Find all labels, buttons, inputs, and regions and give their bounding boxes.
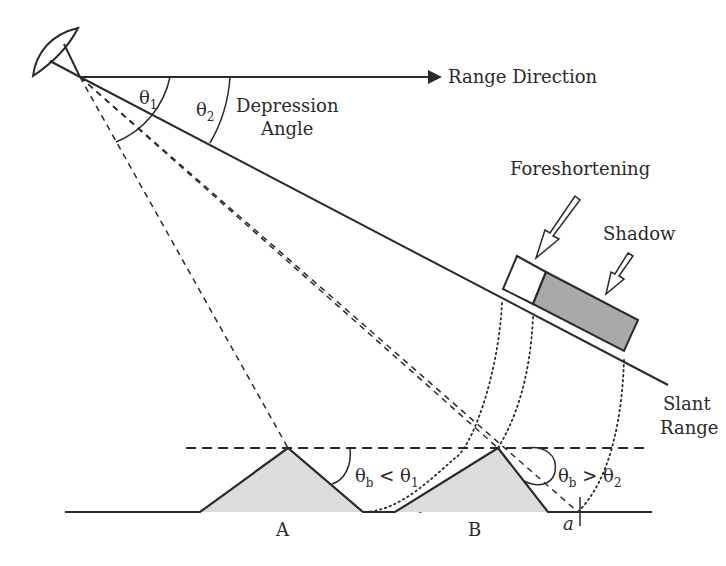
point-b-label: B: [468, 519, 481, 540]
ray-to-peak-a: [80, 77, 288, 448]
depression-angle-label-line1: Depression: [236, 95, 339, 116]
range-direction-label: Range Direction: [448, 66, 598, 87]
point-a-label: A: [275, 519, 290, 540]
point-small-a-label: a: [563, 513, 574, 534]
shadow-arrow-icon: [606, 253, 633, 294]
theta2-label: θ2: [196, 99, 214, 124]
depression-angle-label-line2: Angle: [260, 118, 314, 139]
ray-to-point-a: [80, 77, 578, 512]
foreshortening-arrow-icon: [536, 196, 580, 258]
foreshortening-label: Foreshortening: [510, 158, 650, 179]
antenna-icon: [33, 28, 80, 77]
theta-b-arc-a: [332, 448, 350, 484]
slant-range-label-line1: Slant: [663, 393, 711, 414]
sar-geometry-diagram: Range Direction θ1 θ2 Depression Angle F…: [0, 0, 726, 566]
range-direction-arrow: [80, 70, 442, 84]
condition-a-label: θb < θ1: [355, 465, 419, 490]
condition-b-label: θb > θ2: [558, 465, 622, 490]
shadow-label: Shadow: [603, 223, 676, 244]
look-rays: [80, 77, 578, 512]
shadow-box: [533, 272, 638, 351]
slant-range-line: [80, 77, 668, 385]
slant-range-label-line2: Range: [660, 417, 718, 438]
